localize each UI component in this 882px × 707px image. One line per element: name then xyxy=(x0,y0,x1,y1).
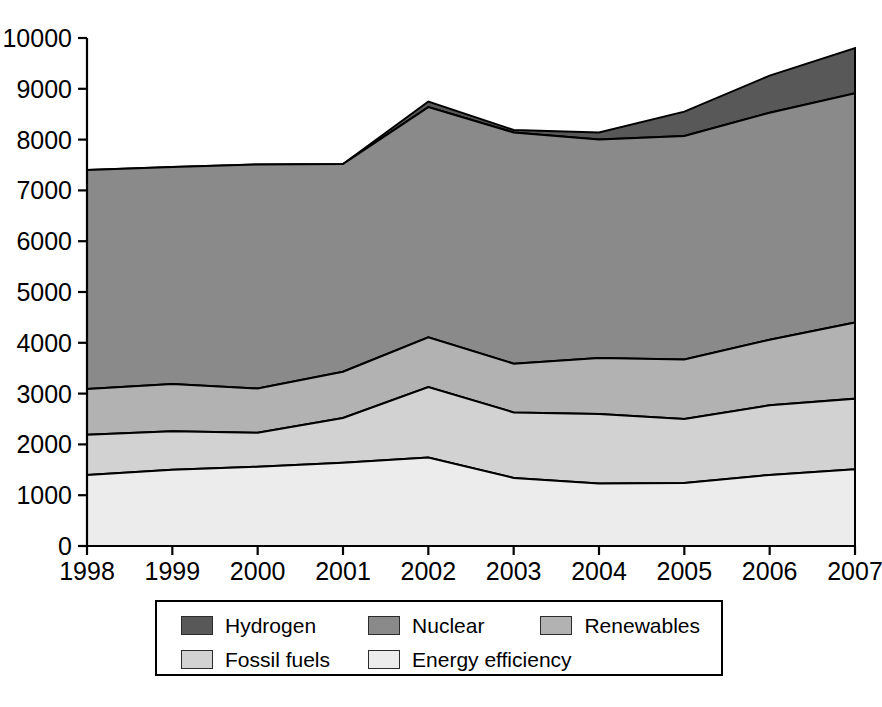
y-tick-label: 0 xyxy=(58,532,72,560)
stacked-area-chart: 0100020003000400050006000700080009000100… xyxy=(0,0,882,707)
y-tick-label: 6000 xyxy=(16,227,72,255)
legend-item-renewables[interactable]: Renewables xyxy=(540,615,700,636)
legend-swatch-energy-efficiency xyxy=(368,650,400,669)
x-tick-label: 1999 xyxy=(145,557,201,585)
y-tick-label: 2000 xyxy=(16,430,72,458)
x-tick-label: 2004 xyxy=(571,557,627,585)
legend-label-fossil-fuels: Fossil fuels xyxy=(225,649,330,670)
x-tick-label: 2002 xyxy=(401,557,457,585)
y-tick-label: 1000 xyxy=(16,481,72,509)
x-tick-label: 2005 xyxy=(657,557,713,585)
legend-item-energy-efficiency[interactable]: Energy efficiency xyxy=(368,649,572,670)
legend-label-renewables: Renewables xyxy=(584,615,700,636)
legend-label-hydrogen: Hydrogen xyxy=(225,615,316,636)
series-areas xyxy=(87,48,855,546)
x-tick-label: 1998 xyxy=(59,557,115,585)
x-tick-label: 2000 xyxy=(230,557,286,585)
legend-swatch-hydrogen xyxy=(181,616,213,635)
x-axis-tick-labels: 1998199920002001200220032004200520062007 xyxy=(59,557,882,585)
legend-label-nuclear: Nuclear xyxy=(412,615,484,636)
legend-label-energy-efficiency: Energy efficiency xyxy=(412,649,572,670)
y-tick-label: 8000 xyxy=(16,126,72,154)
legend: Hydrogen Nuclear Renewables Fossil fuels… xyxy=(155,600,723,676)
y-tick-label: 10000 xyxy=(2,24,72,52)
legend-swatch-fossil-fuels xyxy=(181,650,213,669)
x-tick-label: 2007 xyxy=(827,557,882,585)
y-tick-label: 4000 xyxy=(16,329,72,357)
legend-item-hydrogen[interactable]: Hydrogen xyxy=(181,615,316,636)
legend-swatch-nuclear xyxy=(368,616,400,635)
area-series-nuclear xyxy=(87,93,855,389)
legend-swatch-renewables xyxy=(540,616,572,635)
y-tick-label: 5000 xyxy=(16,278,72,306)
y-tick-label: 3000 xyxy=(16,380,72,408)
x-tick-label: 2006 xyxy=(742,557,798,585)
y-tick-label: 7000 xyxy=(16,176,72,204)
legend-item-fossil-fuels[interactable]: Fossil fuels xyxy=(181,649,330,670)
legend-item-nuclear[interactable]: Nuclear xyxy=(368,615,484,636)
x-tick-label: 2003 xyxy=(486,557,542,585)
legend-row-1: Hydrogen Nuclear Renewables xyxy=(157,608,721,642)
x-tick-label: 2001 xyxy=(315,557,371,585)
y-tick-label: 9000 xyxy=(16,75,72,103)
y-axis-tick-labels: 0100020003000400050006000700080009000100… xyxy=(2,24,72,560)
legend-row-2: Fossil fuels Energy efficiency xyxy=(157,642,721,676)
